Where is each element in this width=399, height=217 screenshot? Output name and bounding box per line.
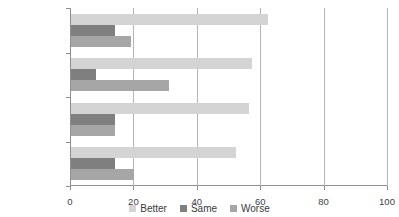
x-axis-tick [260,186,261,190]
legend-item[interactable]: Same [180,203,217,214]
x-axis-tick [197,186,198,190]
bar-better [71,103,249,114]
bar-same [71,114,115,125]
bar-worse [71,169,134,180]
bar-worse [71,36,131,47]
legend-item[interactable]: Better [129,203,167,214]
chart-legend: BetterSameWorse [0,203,399,214]
bar-group [71,53,388,98]
legend-swatch-icon [230,205,237,212]
y-axis-tick [66,8,70,9]
bar-chart: 020406080100West CityEast DocksKirkside … [0,0,399,217]
bar-group [71,97,388,142]
bar-group [71,8,388,53]
bar-better [71,147,236,158]
y-axis-tick [66,97,70,98]
bar-group [71,142,388,187]
plot-area: 020406080100West CityEast DocksKirkside … [70,8,388,186]
x-axis-tick [70,186,71,190]
legend-swatch-icon [129,205,136,212]
bar-better [71,14,268,25]
y-axis-tick [66,186,70,187]
x-axis-tick [324,186,325,190]
legend-label: Same [191,203,217,214]
bar-worse [71,80,169,91]
y-axis-tick [66,53,70,54]
legend-label: Worse [241,203,270,214]
bar-worse [71,125,115,136]
legend-item[interactable]: Worse [230,203,270,214]
clipped-title-strip [0,0,399,7]
y-axis-tick [66,142,70,143]
bar-better [71,58,252,69]
x-axis-tick [133,186,134,190]
bar-same [71,25,115,36]
bar-same [71,69,96,80]
legend-swatch-icon [180,205,187,212]
legend-label: Better [140,203,167,214]
bar-same [71,158,115,169]
x-axis-tick [387,186,388,190]
